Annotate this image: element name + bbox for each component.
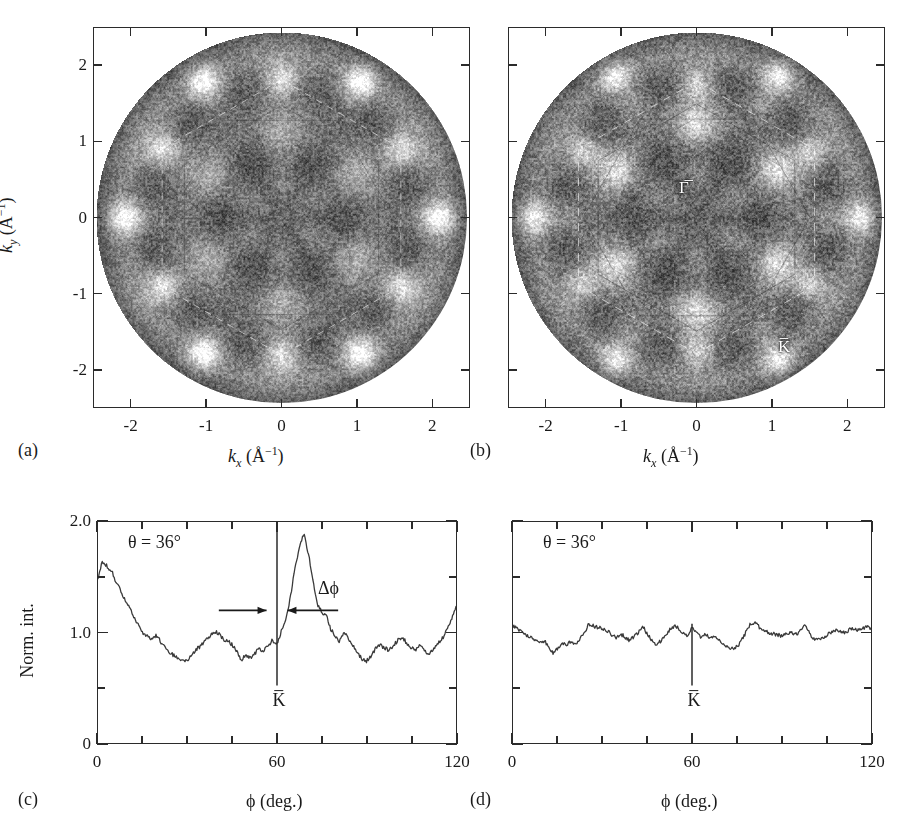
panel-d-theta-annotation: θ = 36° [543,532,596,553]
tick-x-top-30 [601,521,603,529]
tick-x-top-120 [871,521,873,532]
tick-y-right-0 [861,743,872,745]
tick-x-top-75 [736,521,738,529]
figure-root: -2-1012 210-1-2 kx (Å−1) ky (Å−1) (a) -2… [0,0,907,836]
x-ticklabel-0: 0 [490,753,534,770]
tick-x-top-45 [646,521,648,529]
tick-y-left-1 [512,632,523,634]
x-ticklabel-120: 120 [850,753,894,770]
tick-y-right-0.5 [864,687,872,689]
tick-x-bottom-75 [736,736,738,744]
tick-y-left-0 [512,743,523,745]
panel-d-k-bar-label: K̅ [684,690,704,711]
tick-y-left-2 [512,520,523,522]
tick-y-right-1.5 [864,576,872,578]
tick-x-top-90 [781,521,783,529]
tick-x-bottom-15 [556,736,558,744]
x-ticklabel-60: 60 [670,753,714,770]
tick-x-top-15 [556,521,558,529]
panel-d-label: (d) [470,789,491,810]
tick-x-top-0 [511,521,513,532]
tick-y-right-2 [861,520,872,522]
panel-d-x-axis-title: ϕ (deg.) [661,791,717,812]
tick-x-bottom-105 [826,736,828,744]
tick-y-left-0.5 [512,687,520,689]
tick-y-left-1.5 [512,576,520,578]
tick-x-bottom-30 [601,736,603,744]
tick-x-bottom-45 [646,736,648,744]
tick-x-top-60 [691,521,693,532]
tick-y-right-1 [861,632,872,634]
tick-x-bottom-60 [691,733,693,744]
panel-d: 060120 θ = 36° K̅ ϕ (deg.) (d) [0,0,907,836]
tick-x-top-105 [826,521,828,529]
tick-x-bottom-90 [781,736,783,744]
